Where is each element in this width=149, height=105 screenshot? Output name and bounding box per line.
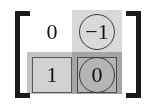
matrix-cell-r1c2: −1	[72, 11, 122, 52]
matrix-right-bracket	[126, 11, 141, 98]
matrix-entry-value: −1	[85, 21, 108, 43]
matrix-cell-r1c1: 0	[32, 11, 72, 52]
right-bracket-top-arm	[126, 11, 141, 16]
matrix-grid: 0 −1 1 0	[32, 11, 122, 98]
right-bracket-bottom-arm	[126, 93, 141, 98]
matrix-cell-r2c1: 1	[32, 52, 72, 98]
matrix-entry-value: 1	[47, 64, 58, 86]
left-bracket-bottom-arm	[15, 93, 30, 98]
left-bracket-top-arm	[15, 11, 30, 16]
matrix-cell-r2c2: 0	[72, 52, 122, 98]
matrix-left-bracket	[15, 11, 30, 98]
matrix-entry-value: 0	[47, 21, 58, 43]
matrix-figure: 0 −1 1 0	[0, 0, 149, 105]
matrix-entry-value: 0	[92, 64, 103, 86]
